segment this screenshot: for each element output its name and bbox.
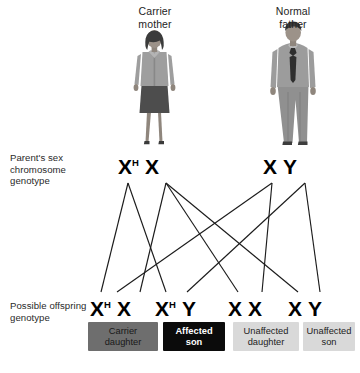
outcome-3-line2: daughter [233, 337, 299, 348]
father-allele-1: X [263, 155, 277, 178]
mother-allele-2: X [145, 155, 159, 178]
carrier-mother-title: Carrier mother [115, 5, 195, 30]
cross-line-mX-to-3 [166, 183, 238, 292]
offspring-3-allele-1: X [228, 297, 242, 320]
outcome-1-line1: Carrier [88, 326, 158, 337]
offspring-genotype-2: XHY [155, 297, 196, 321]
outcome-box-unaffected-daughter: Unaffected daughter [233, 322, 299, 351]
mother-genotype: XHX [118, 155, 159, 179]
offspring-2-allele-2: Y [182, 297, 196, 320]
outcome-4-line2: son [303, 337, 355, 348]
cross-line-fX-to-1 [117, 183, 272, 292]
normal-father-title: Normal father [253, 5, 333, 30]
offspring-2-allele-1: X [155, 297, 169, 320]
carrier-mother-title-line1: Carrier [115, 5, 195, 18]
cross-line-fY-to-4 [305, 183, 320, 292]
cross-line-mX-to-4 [166, 183, 298, 292]
offspring-2-allele-1-superscript: H [169, 299, 176, 310]
inheritance-diagram: Carrier mother Normal father Parent's se… [0, 0, 360, 373]
cross-line-mX-to-1 [140, 183, 166, 292]
normal-father-title-line2: father [253, 18, 333, 31]
cross-line-mH-to-1 [101, 183, 128, 292]
normal-father-title-line1: Normal [253, 5, 333, 18]
offspring-4-allele-1: X [288, 297, 302, 320]
father-genotype: XY [263, 155, 297, 179]
outcome-box-affected-son: Affected son [163, 322, 225, 351]
offspring-4-allele-2: Y [308, 297, 322, 320]
outcome-3-line1: Unaffected [233, 326, 299, 337]
offspring-genotype-row-label: Possible offspring genotype [10, 300, 96, 323]
father-allele-2: Y [283, 155, 297, 178]
offspring-1-allele-1-superscript: H [104, 299, 111, 310]
outcome-1-line2: daughter [88, 337, 158, 348]
offspring-1-allele-1: X [90, 297, 104, 320]
outcome-2-line2: son [163, 337, 225, 348]
offspring-1-allele-2: X [117, 297, 131, 320]
cross-line-fY-to-2 [187, 183, 305, 292]
cross-line-fX-to-3 [262, 183, 272, 292]
carrier-mother-title-line2: mother [115, 18, 195, 31]
offspring-genotype-4: XY [288, 297, 322, 321]
outcome-box-carrier-daughter: Carrier daughter [88, 322, 158, 351]
offspring-genotype-3: XX [228, 297, 262, 321]
offspring-3-allele-2: X [248, 297, 262, 320]
outcome-box-unaffected-son: Unaffected son [303, 322, 355, 351]
outcome-4-line1: Unaffected [303, 326, 355, 337]
outcome-2-line1: Affected [163, 326, 225, 337]
cross-line-mH-to-2 [128, 183, 166, 292]
offspring-genotype-1: XHX [90, 297, 131, 321]
parent-genotype-row-label: Parent's sex chromosome genotype [10, 152, 96, 187]
mother-allele-1-superscript: H [132, 157, 139, 168]
mother-allele-1: X [118, 155, 132, 178]
